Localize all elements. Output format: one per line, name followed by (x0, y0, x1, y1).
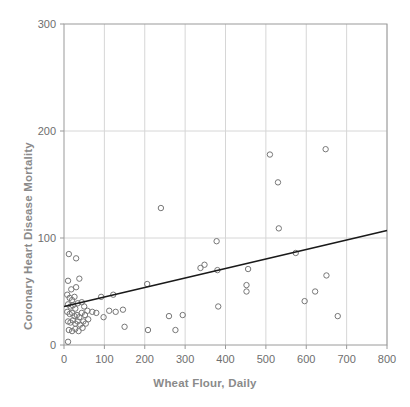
x-tick-label: 300 (176, 353, 194, 365)
x-tick-label: 0 (61, 353, 67, 365)
chart-figure: 0100200300400500600700800 0100200300 Whe… (0, 0, 410, 407)
plot-background (0, 0, 410, 407)
x-tick-label: 200 (136, 353, 154, 365)
x-tick-label: 400 (216, 353, 234, 365)
y-tick-label: 200 (38, 125, 56, 137)
y-tick-label: 0 (50, 339, 56, 351)
x-axis-title: Wheat Flour, Daily (0, 377, 410, 389)
x-tick-labels: 0100200300400500600700800 (61, 353, 396, 365)
x-tick-label: 800 (378, 353, 396, 365)
x-tick-label: 100 (95, 353, 113, 365)
y-axis-title: Coronary Heart Disease Mortality (22, 142, 34, 330)
x-tick-label: 700 (337, 353, 355, 365)
x-tick-label: 600 (297, 353, 315, 365)
y-tick-label: 100 (38, 232, 56, 244)
x-tick-label: 500 (257, 353, 275, 365)
scatter-plot-svg: 0100200300400500600700800 0100200300 (0, 0, 410, 407)
y-tick-label: 300 (38, 18, 56, 30)
